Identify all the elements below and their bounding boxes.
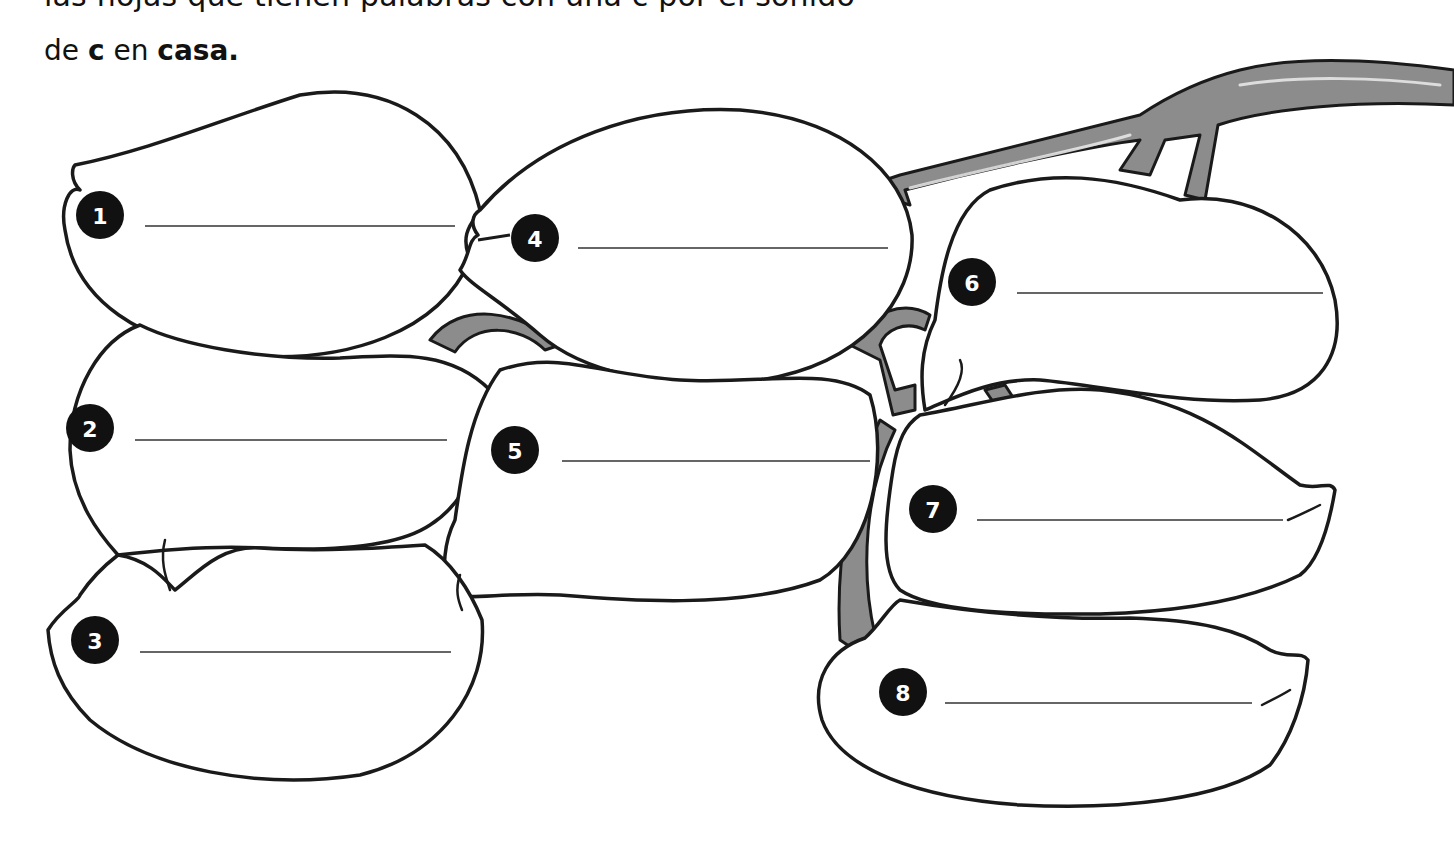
- svg-text:4: 4: [527, 227, 542, 252]
- leaf-5: [445, 362, 878, 600]
- leaf-illustration: 1 2 3 4 5 6 7 8: [0, 0, 1454, 849]
- badge-1: 1: [76, 191, 124, 239]
- svg-text:8: 8: [895, 681, 910, 706]
- svg-text:3: 3: [87, 629, 102, 654]
- svg-text:2: 2: [82, 417, 97, 442]
- badge-5: 5: [491, 426, 539, 474]
- main-branch: [885, 61, 1454, 205]
- badge-2: 2: [66, 404, 114, 452]
- svg-text:1: 1: [92, 204, 107, 229]
- svg-text:5: 5: [507, 439, 522, 464]
- leaf-1: [64, 92, 480, 357]
- svg-text:6: 6: [964, 271, 979, 296]
- badge-3: 3: [71, 616, 119, 664]
- badge-6: 6: [948, 258, 996, 306]
- leaf-3: [48, 545, 483, 780]
- badge-7: 7: [909, 485, 957, 533]
- svg-text:7: 7: [925, 498, 940, 523]
- badge-8: 8: [879, 668, 927, 716]
- badge-4: 4: [511, 214, 559, 262]
